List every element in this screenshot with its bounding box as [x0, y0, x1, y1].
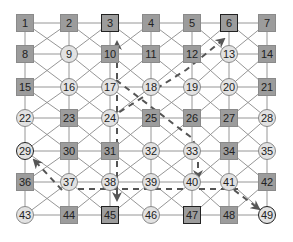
node-39: 39	[142, 173, 160, 191]
node-45: 45	[101, 206, 119, 224]
node-34: 34	[220, 142, 238, 160]
node-20: 20	[220, 78, 238, 96]
node-35: 35	[258, 142, 276, 160]
node-48: 48	[220, 206, 238, 224]
node-11: 11	[142, 45, 160, 63]
node-30: 30	[60, 142, 78, 160]
node-40: 40	[183, 173, 201, 191]
node-41: 41	[220, 173, 238, 191]
node-12: 12	[183, 45, 201, 63]
node-3: 3	[101, 14, 119, 32]
node-33: 33	[183, 142, 201, 160]
node-2: 2	[60, 14, 78, 32]
node-25: 25	[142, 109, 160, 127]
node-24: 24	[101, 109, 119, 127]
node-27: 27	[220, 109, 238, 127]
node-42: 42	[258, 173, 276, 191]
path-to-47	[116, 80, 198, 178]
node-19: 19	[183, 78, 201, 96]
node-49: 49	[258, 206, 276, 224]
node-4: 4	[142, 14, 160, 32]
node-17: 17	[101, 78, 119, 96]
node-46: 46	[142, 206, 160, 224]
node-22: 22	[16, 109, 34, 127]
node-7: 7	[258, 14, 276, 32]
node-1: 1	[16, 14, 34, 32]
node-47: 47	[183, 206, 201, 224]
node-16: 16	[60, 78, 78, 96]
node-15: 15	[16, 78, 34, 96]
node-8: 8	[16, 45, 34, 63]
node-10: 10	[101, 45, 119, 63]
node-31: 31	[101, 142, 119, 160]
node-32: 32	[142, 142, 160, 160]
path-to-29	[34, 160, 62, 190]
node-37: 37	[60, 173, 78, 191]
node-5: 5	[183, 14, 201, 32]
node-38: 38	[101, 173, 119, 191]
node-29: 29	[16, 142, 34, 160]
node-44: 44	[60, 206, 78, 224]
node-36: 36	[16, 173, 34, 191]
node-23: 23	[60, 109, 78, 127]
node-9: 9	[60, 45, 78, 63]
node-6: 6	[220, 14, 238, 32]
node-14: 14	[258, 45, 276, 63]
node-28: 28	[258, 109, 276, 127]
node-26: 26	[183, 109, 201, 127]
node-13: 13	[220, 45, 238, 63]
node-21: 21	[258, 78, 276, 96]
node-43: 43	[16, 206, 34, 224]
node-18: 18	[142, 78, 160, 96]
